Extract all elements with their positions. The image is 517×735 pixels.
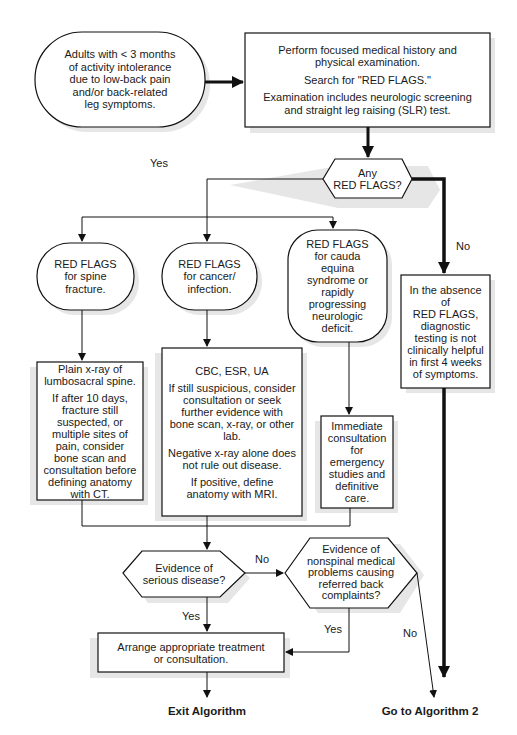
cbc-paragraph: CBC, ESR, UA: [195, 365, 268, 377]
decision-line: RED FLAGS?: [333, 179, 401, 191]
exam-paragraph: Examination includes neurologic screenin…: [253, 91, 482, 116]
absence-line: testing is not: [415, 332, 477, 344]
xray-paragraph: Plain x-ray of lumbosacral spine.: [40, 363, 140, 387]
decision-line: Evidence of: [155, 562, 212, 574]
decision-red-flags-text: Any RED FLAGS?: [323, 159, 412, 198]
cauda-line: rapidly: [321, 286, 353, 298]
start-terminal-text: Adults with < 3 months of activity intol…: [35, 32, 205, 127]
absence-line: of symptoms.: [413, 368, 478, 380]
cauda-line: syndrome or: [307, 274, 368, 286]
cbc-box-text: CBC, ESR, UA If still suspicious, consid…: [164, 348, 300, 516]
decision-serious-text: Evidence of serious disease?: [123, 551, 245, 597]
yes-label: Yes: [150, 157, 168, 169]
cauda-line: progressing: [309, 298, 366, 310]
immediate-box-text: Immediate consultation for emergency stu…: [323, 416, 391, 508]
exam-paragraph: Perform focused medical history and phys…: [253, 44, 482, 69]
spine-line: for spine: [64, 270, 106, 283]
exam-paragraph: Search for "RED FLAGS.": [304, 74, 431, 87]
cauda-line: RED FLAGS: [306, 238, 368, 250]
cbc-paragraph: If positive, define anatomy with MRI.: [164, 476, 300, 500]
cauda-equina-text: RED FLAGS for cauda equina syndrome or r…: [288, 230, 387, 342]
xray-box-text: Plain x-ray of lumbosacral spine. If aft…: [40, 362, 140, 500]
cauda-line: neurologic: [312, 310, 363, 322]
decision-line: serious disease?: [143, 574, 226, 586]
arrange-line: or consultation.: [154, 653, 229, 665]
no-label: No: [403, 627, 417, 639]
cancer-line: infection.: [187, 283, 231, 296]
cancer-line: RED FLAGS: [178, 258, 240, 271]
absence-line: diagnostic: [421, 320, 471, 332]
start-line: and/or back-related: [73, 86, 168, 99]
go-to-algorithm-2-label: Go to Algorithm 2: [365, 705, 495, 717]
exam-box-text: Perform focused medical history and phys…: [253, 33, 482, 127]
cancer-infection-text: RED FLAGS for cancer/ infection.: [162, 243, 257, 310]
decision-line: Any: [358, 167, 377, 179]
cauda-line: equina: [321, 262, 354, 274]
yes-label: Yes: [324, 623, 342, 635]
immediate-text: Immediate consultation for emergency stu…: [323, 420, 391, 504]
cbc-paragraph: If still suspicious, consider consultati…: [164, 382, 300, 442]
nonspinal-line: complaints?: [322, 590, 381, 602]
no-label: No: [255, 553, 269, 565]
spine-line: fracture.: [65, 283, 105, 296]
cauda-line: deficit.: [322, 322, 354, 334]
arrange-box-text: Arrange appropriate treatment or consult…: [98, 633, 284, 672]
cancer-line: for cancer/: [184, 270, 236, 283]
start-line: leg symptoms.: [85, 98, 156, 111]
exit-algorithm-label: Exit Algorithm: [147, 705, 267, 717]
absence-line: in first 4 weeks: [409, 356, 482, 368]
yes-label: Yes: [182, 610, 200, 622]
arrange-line: Arrange appropriate treatment: [117, 641, 264, 653]
start-line: due to low-back pain: [70, 73, 171, 86]
start-line: of activity intolerance: [69, 61, 172, 74]
cbc-paragraph: Negative x-ray alone does not rule out d…: [164, 447, 300, 471]
absence-box-text: In the absence of RED FLAGS, diagnostic …: [401, 275, 490, 388]
spine-line: RED FLAGS: [54, 258, 116, 271]
spine-fracture-text: RED FLAGS for spine fracture.: [37, 243, 134, 310]
absence-line: of: [441, 296, 450, 308]
absence-line: In the absence: [409, 284, 481, 296]
xray-paragraph: If after 10 days, fracture still suspect…: [40, 392, 140, 500]
no-label: No: [456, 240, 470, 252]
start-line: Adults with < 3 months: [65, 48, 176, 61]
decision-nonspinal-text: Evidence of nonspinal medical problems c…: [300, 538, 402, 608]
cauda-line: for cauda: [315, 250, 361, 262]
absence-line: RED FLAGS,: [413, 308, 478, 320]
absence-line: clinically helpful: [407, 344, 483, 356]
